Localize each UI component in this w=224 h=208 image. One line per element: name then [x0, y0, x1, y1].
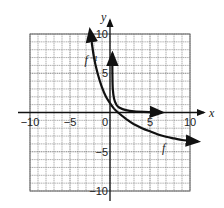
y-axis-label: y [100, 10, 107, 24]
coordinate-plane: xy−10−50510105−5−10ff⁻¹ [0, 0, 224, 208]
curve-label: f⁻¹ [84, 53, 97, 67]
x-axis-label: x [208, 106, 215, 120]
x-tick-label: 10 [184, 116, 196, 128]
x-tick-label: 0 [102, 116, 108, 128]
x-tick-label: −5 [64, 116, 77, 128]
y-tick-label: 5 [102, 67, 108, 79]
x-tick-label: −10 [21, 116, 40, 128]
y-tick-label: 10 [96, 28, 108, 40]
y-tick-label: −10 [89, 185, 108, 197]
graph-figure: xy−10−50510105−5−10ff⁻¹ [0, 0, 224, 208]
x-tick-label: 5 [147, 116, 153, 128]
y-tick-label: −5 [95, 146, 108, 158]
